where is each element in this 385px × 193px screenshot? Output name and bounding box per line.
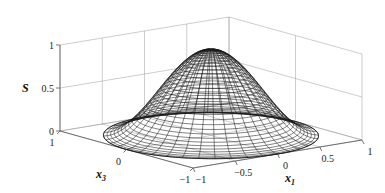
x1-tick-label: 1: [368, 146, 373, 157]
x3-tick-mark: [190, 168, 193, 171]
x3-tick-label: 1: [50, 137, 55, 148]
wireframe-surface: [103, 49, 318, 159]
x3-tick-mark: [124, 150, 127, 153]
x3-tick-label: 0: [116, 156, 121, 167]
x1-tick-mark: [362, 140, 364, 144]
x1-axis-subscript: 1: [291, 178, 295, 187]
x1-tick-mark: [278, 154, 280, 158]
x1-tick-label: 0.5: [322, 153, 335, 164]
x1-tick-mark: [320, 147, 322, 151]
x1-axis-label: x1: [284, 171, 295, 187]
x3-tick-mark: [57, 131, 60, 134]
x1-tick-label: −0.5: [234, 167, 252, 178]
s-tick-label: 0: [49, 126, 54, 137]
x3-axis-subscript: 3: [101, 174, 106, 183]
s-axis-label: S: [22, 81, 29, 95]
floor-grid-line: [127, 122, 296, 150]
mesh-radial-line: [211, 50, 318, 139]
x3-axis-letter: x: [95, 167, 102, 181]
surface-plot: 00.51−1−0.500.51−101 S x3 x1: [0, 0, 385, 193]
x1-axis-letter: x: [284, 171, 291, 185]
x1-tick-label: 0: [283, 160, 288, 171]
grid-lines: [60, 17, 362, 168]
s-tick-label: 0.5: [42, 83, 55, 94]
x1-tick-mark: [193, 168, 195, 172]
x3-axis-label: x3: [95, 167, 106, 183]
x1-tick-label: −1: [196, 174, 207, 185]
s-tick-label: 1: [49, 40, 54, 51]
x1-tick-mark: [235, 161, 237, 165]
x3-tick-label: −1: [180, 174, 191, 185]
